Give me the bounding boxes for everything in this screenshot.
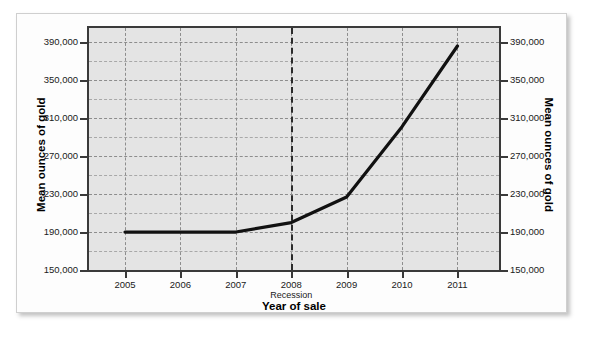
- y-tick-label-left: 350,000: [17, 75, 78, 85]
- y-tick-right: [501, 232, 508, 234]
- y-tick-right: [501, 80, 508, 82]
- y-tick-right: [501, 118, 508, 120]
- y-tick-right: [501, 194, 508, 196]
- y-tick-label-right: 350,000: [510, 75, 544, 85]
- y-tick-right: [501, 156, 508, 158]
- x-tick: [291, 272, 293, 278]
- x-tick: [402, 272, 404, 278]
- x-axis-title: Year of sale: [87, 301, 501, 313]
- y-tick-label-left: 150,000: [17, 265, 78, 275]
- y-tick-left: [80, 194, 87, 196]
- x-tick-label: 2007: [206, 280, 266, 290]
- figure-card: Mean ounces of gold Mean ounces of gold …: [16, 13, 567, 313]
- y-tick-label-right: 230,000: [510, 189, 544, 199]
- y-tick-label-right: 390,000: [510, 37, 544, 47]
- plot-area: [87, 26, 501, 272]
- y-tick-label-right: 190,000: [510, 227, 544, 237]
- x-tick-label: 2011: [427, 280, 487, 290]
- y-tick-label-left: 390,000: [17, 37, 78, 47]
- y-tick-left: [80, 42, 87, 44]
- x-tick: [236, 272, 238, 278]
- y-tick-label-right: 310,000: [510, 113, 544, 123]
- x-tick-label: 2010: [372, 280, 432, 290]
- x-tick-label: 2006: [150, 280, 210, 290]
- x-tick-label: 2008: [261, 280, 321, 290]
- recession-annotation-label: Recession: [246, 291, 336, 300]
- y-tick-label-left: 270,000: [17, 151, 78, 161]
- x-tick: [180, 272, 182, 278]
- line-chart: Mean ounces of gold Mean ounces of gold …: [17, 14, 568, 314]
- y-tick-right: [501, 270, 508, 272]
- y-tick-left: [80, 118, 87, 120]
- data-series-line: [89, 28, 499, 270]
- y-tick-left: [80, 156, 87, 158]
- x-tick-label: 2005: [95, 280, 155, 290]
- x-tick: [347, 272, 349, 278]
- y-tick-left: [80, 80, 87, 82]
- y-tick-label-right: 150,000: [510, 265, 544, 275]
- x-tick: [125, 272, 127, 278]
- y-tick-label-left: 230,000: [17, 189, 78, 199]
- y-tick-label-right: 270,000: [510, 151, 544, 161]
- y-tick-label-left: 310,000: [17, 113, 78, 123]
- x-tick: [457, 272, 459, 278]
- y-tick-left: [80, 270, 87, 272]
- x-tick-label: 2009: [317, 280, 377, 290]
- y-tick-left: [80, 232, 87, 234]
- y-tick-label-left: 190,000: [17, 227, 78, 237]
- y-tick-right: [501, 42, 508, 44]
